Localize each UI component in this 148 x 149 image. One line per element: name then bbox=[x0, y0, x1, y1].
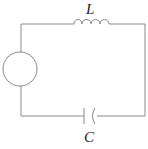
wire-bottom-left bbox=[21, 86, 84, 116]
circuit-diagram: L C bbox=[0, 0, 148, 149]
wires bbox=[21, 24, 145, 116]
inductor-label: L bbox=[85, 1, 94, 17]
inductor-icon bbox=[74, 20, 109, 25]
capacitor-label: C bbox=[84, 129, 95, 145]
wire-top-left bbox=[21, 24, 74, 52]
capacitor-icon bbox=[84, 108, 95, 124]
ac-source-icon bbox=[3, 52, 37, 86]
wire-top-right bbox=[97, 24, 145, 116]
